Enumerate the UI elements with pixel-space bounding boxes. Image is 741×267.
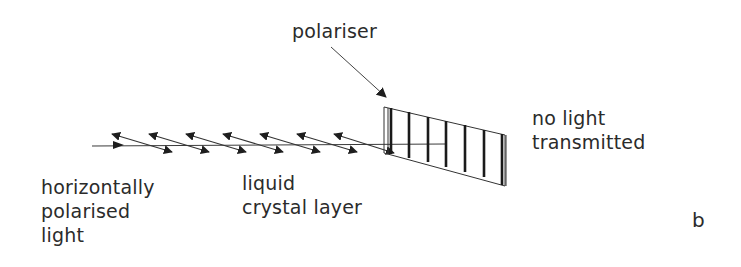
liquid-crystal-arrows (112, 134, 394, 153)
polariser-transmission-lines (391, 108, 502, 185)
polariser-label: polariser (292, 19, 377, 43)
liquid-crystal-line-1: liquid (242, 171, 362, 195)
horizontally-polarised-light-label: horizontally polarised light (41, 175, 155, 247)
input-light-line-2: polarised (41, 199, 155, 223)
polariser-pointer-arrow (331, 47, 386, 97)
no-light-transmitted-label: no light transmitted (532, 106, 645, 154)
panel-label-text: b (692, 208, 705, 232)
polariser-text: polariser (292, 19, 377, 43)
input-light-line-3: light (41, 223, 155, 247)
ray-arrowhead-icon (113, 141, 124, 149)
polariser-plate (384, 107, 506, 186)
panel-label: b (692, 208, 705, 232)
lcd-polarisation-diagram: polariser no light transmitted horizonta… (0, 0, 741, 267)
input-light-line-1: horizontally (41, 175, 155, 199)
no-light-line-2: transmitted (532, 130, 645, 154)
liquid-crystal-line-2: crystal layer (242, 195, 362, 219)
liquid-crystal-layer-label: liquid crystal layer (242, 171, 362, 219)
no-light-line-1: no light (532, 106, 645, 130)
